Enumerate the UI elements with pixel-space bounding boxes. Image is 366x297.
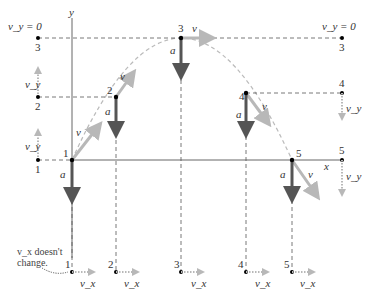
bottom-label-5: 5 — [284, 258, 290, 270]
right-vy-label-4: v_y — [346, 102, 361, 114]
bottom-vx-label-5: v_x — [300, 277, 315, 289]
bottom-point-1: 1 v_x — [65, 258, 95, 289]
bottom-vx-label-3: v_x — [191, 277, 206, 289]
velocity-label-4: v⃗ — [262, 100, 275, 112]
bottom-label-4: 4 — [238, 258, 244, 270]
acceleration-label-5: a⃗ — [280, 168, 294, 180]
trajectory-point-5: 5 v⃗ a⃗ — [280, 147, 321, 195]
acceleration-label-3: a⃗ — [170, 44, 184, 56]
left-dot-2 — [36, 95, 40, 99]
bottom-label-1: 1 — [65, 258, 71, 270]
bottom-vx-label-1: v_x — [80, 277, 95, 289]
point-label-2: 2 — [107, 84, 113, 96]
right-label-5: 5 — [339, 144, 345, 156]
bottom-vx-row: v_x doesn't change. 1 v_x 2 v_x 3 v_x 4 … — [17, 246, 315, 289]
vx-annotation-line1: v_x doesn't — [17, 246, 63, 257]
right-label-4: 4 — [339, 77, 345, 89]
right-label-3: 3 — [339, 41, 345, 53]
point-dot-2 — [114, 95, 118, 99]
point-label-5: 5 — [296, 147, 302, 159]
y-axis-label: y — [68, 6, 74, 18]
bottom-point-4: 4 v_x — [238, 258, 270, 289]
left-label-3: 3 — [35, 41, 41, 53]
left-vy-zero-label: v_y = 0 — [8, 20, 42, 32]
velocity-label-1: v⃗ — [76, 126, 89, 138]
point-dot-1 — [70, 158, 74, 162]
left-dot-3 — [36, 36, 40, 40]
acceleration-label-2: a⃗ — [105, 105, 119, 117]
point-label-3: 3 — [178, 22, 184, 34]
left-label-2: 2 — [35, 100, 41, 112]
trajectory-point-4: 4 v⃗ a⃗ — [236, 90, 275, 130]
velocity-label-5: v⃗ — [308, 168, 321, 180]
vx-annotation-line2: change. — [17, 257, 48, 268]
bottom-vx-label-2: v_x — [124, 277, 139, 289]
acceleration-label-4: a⃗ — [236, 108, 250, 120]
left-vy-label-2: v_y — [25, 78, 40, 90]
point-label-1: 1 — [63, 147, 69, 159]
point-label-4: 4 — [239, 90, 245, 102]
bottom-point-2: 2 v_x — [108, 258, 139, 289]
right-vy-label-5: v_y — [346, 170, 361, 182]
trajectory-point-2: 2 v⃗ a⃗ — [105, 70, 133, 130]
left-dot-1 — [36, 158, 40, 162]
left-vy-label-1: v_y — [25, 140, 40, 152]
bottom-label-2: 2 — [108, 258, 114, 270]
velocity-label-2: v⃗ — [120, 70, 133, 82]
right-vy-zero-label: v_y = 0 — [322, 20, 356, 32]
bottom-vx-label-4: v_x — [255, 277, 270, 289]
velocity-label-3: v⃗ — [192, 22, 205, 34]
right-dot-3 — [340, 36, 344, 40]
point-dot-3 — [179, 36, 183, 40]
bottom-point-3: 3 v_x — [174, 258, 206, 289]
trajectory-point-3: 3 v⃗ a⃗ — [170, 22, 208, 72]
point-dot-5 — [290, 158, 294, 162]
left-vy-column: v_y = 0 3 v_y 2 v_y 1 — [8, 20, 42, 175]
left-label-1: 1 — [35, 163, 41, 175]
projectile-motion-diagram: y x 1 v⃗ a⃗ 2 v⃗ a⃗ 3 v⃗ a⃗ — [0, 0, 366, 297]
x-axis-label: x — [323, 160, 329, 172]
bottom-label-3: 3 — [174, 258, 180, 270]
trajectory-point-1: 1 v⃗ a⃗ — [60, 126, 97, 196]
acceleration-label-1: a⃗ — [60, 168, 74, 180]
bottom-point-5: 5 v_x — [284, 258, 315, 289]
